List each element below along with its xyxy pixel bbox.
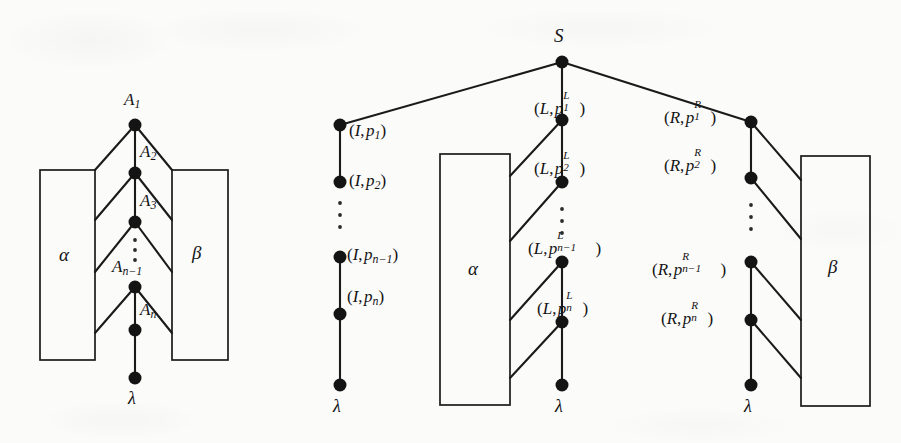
label-R2: (R, pR2) xyxy=(664,154,716,174)
ellipsis-dot-I-1 xyxy=(338,201,342,205)
ellipsis-dot-R-3 xyxy=(749,227,753,231)
label-alpha-right: α xyxy=(468,259,478,278)
ellipsis-dot-R-1 xyxy=(749,203,753,207)
node-I-leaf xyxy=(334,379,347,392)
ellipsis-dot-I-2 xyxy=(338,213,342,217)
edge-L2-alpha xyxy=(510,182,562,241)
edge-R1-beta xyxy=(751,122,801,180)
beta-box-left xyxy=(172,170,228,360)
node-Ln-1 xyxy=(556,256,569,269)
label-Ln: (L, pLn) xyxy=(537,297,588,317)
ellipsis-dot-L-2 xyxy=(560,219,564,223)
node-I1 xyxy=(334,119,347,132)
ellipsis-dot-I-3 xyxy=(338,225,342,229)
ellipsis-dot-left-2 xyxy=(133,248,137,252)
node-I2 xyxy=(334,176,347,189)
node-Rn-1 xyxy=(745,256,758,269)
ellipsis-dot-L-1 xyxy=(560,207,564,211)
label-A1: A1 xyxy=(124,91,140,111)
label-L2: (L, pL2) xyxy=(534,157,585,177)
edge-Ln-alpha xyxy=(510,322,562,378)
edge-An1-alpha xyxy=(95,287,135,333)
beta-box-right xyxy=(801,156,870,406)
label-An: An xyxy=(140,301,156,321)
label-beta-left: β xyxy=(192,243,201,262)
alpha-box-left xyxy=(40,170,95,360)
node-In xyxy=(334,308,347,321)
label-A3: A3 xyxy=(140,192,156,212)
node-R1 xyxy=(745,116,758,129)
edge-S-R1 xyxy=(562,62,751,122)
label-R1: (R, pR1) xyxy=(664,106,716,126)
node-S xyxy=(556,56,569,69)
right-tree-group xyxy=(334,56,871,407)
node-A1 xyxy=(129,119,142,132)
ellipsis-dot-R-2 xyxy=(749,215,753,219)
node-R2 xyxy=(745,172,758,185)
label-A2: A2 xyxy=(140,143,156,163)
label-L-leaf-lambda: λ xyxy=(555,397,563,415)
node-A2 xyxy=(129,167,142,180)
edge-A2-alpha xyxy=(95,173,135,220)
label-beta-right: β xyxy=(828,257,837,276)
node-L-leaf xyxy=(556,379,569,392)
label-Rn: (R, pRn) xyxy=(661,307,713,327)
edge-R2-beta xyxy=(751,178,801,239)
edge-Rn1-beta xyxy=(751,262,801,320)
label-S: S xyxy=(554,26,564,45)
node-Rn xyxy=(745,314,758,327)
node-A3 xyxy=(129,216,142,229)
label-left-leaf-lambda: λ xyxy=(128,389,136,407)
alpha-box-right xyxy=(440,154,510,405)
label-In-1: (I, pn−1) xyxy=(347,246,398,266)
edge-S-I1 xyxy=(340,62,562,125)
ellipsis-dot-left-1 xyxy=(133,238,137,242)
label-L1: (L, pL1) xyxy=(534,97,585,117)
label-I-leaf-lambda: λ xyxy=(333,397,341,415)
edge-Rn-beta xyxy=(751,320,801,378)
node-left-leaf xyxy=(129,372,142,385)
figure-vector-layer xyxy=(0,0,901,443)
node-In-1 xyxy=(334,251,347,264)
label-Ln-1: (L, pLn−1) xyxy=(528,237,601,257)
label-In: (I, pn) xyxy=(347,288,384,308)
label-R-leaf-lambda: λ xyxy=(744,397,752,415)
node-An-1 xyxy=(129,281,142,294)
node-R-leaf xyxy=(745,379,758,392)
label-Rn-1: (R, pRn−1) xyxy=(652,258,726,278)
label-An-1: An−1 xyxy=(112,258,142,278)
figure-root: A1 A2 A3 An−1 An λ α β S (I, p1) (I, p2)… xyxy=(0,0,901,443)
edge-A1-alpha xyxy=(95,125,135,170)
node-An xyxy=(129,324,142,337)
label-I1: (I, p1) xyxy=(349,122,386,142)
label-alpha-left: α xyxy=(59,245,69,264)
label-I2: (I, p2) xyxy=(349,172,386,192)
